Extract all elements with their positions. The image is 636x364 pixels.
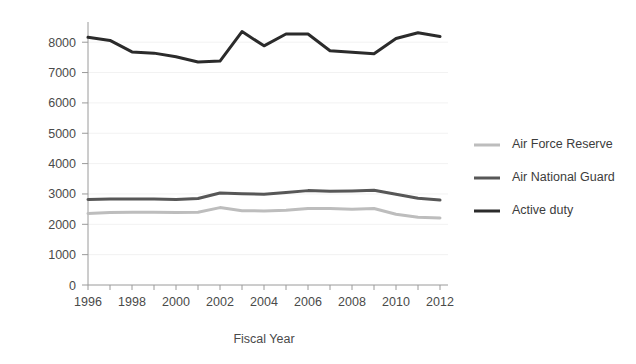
legend-label-active-duty: Active duty [512, 203, 574, 217]
legend-label-air-national-guard: Air National Guard [512, 170, 615, 184]
y-tick-label-0: 0 [69, 279, 76, 293]
line-chart: 010002000300040005000600070008000 199619… [0, 0, 636, 364]
y-tick-label-1000: 1000 [48, 248, 76, 262]
x-tick-label-2004: 2004 [250, 295, 278, 309]
x-tick-label-1996: 1996 [74, 295, 102, 309]
x-tick-label-2012: 2012 [426, 295, 454, 309]
chart-canvas: 010002000300040005000600070008000 199619… [0, 0, 636, 364]
y-tick-label-7000: 7000 [48, 66, 76, 80]
x-axis-title: Fiscal Year [233, 332, 294, 346]
y-tick-label-5000: 5000 [48, 127, 76, 141]
x-tick-label-2010: 2010 [382, 295, 410, 309]
y-tick-label-3000: 3000 [48, 187, 76, 201]
x-tick-label-1998: 1998 [118, 295, 146, 309]
legend-label-air-force-reserve: Air Force Reserve [512, 137, 613, 151]
y-tick-label-2000: 2000 [48, 218, 76, 232]
y-tick-label-6000: 6000 [48, 96, 76, 110]
x-tick-label-2002: 2002 [206, 295, 234, 309]
y-tick-label-4000: 4000 [48, 157, 76, 171]
y-tick-label-8000: 8000 [48, 36, 76, 50]
x-tick-label-2006: 2006 [294, 295, 322, 309]
x-tick-label-2000: 2000 [162, 295, 190, 309]
x-tick-label-2008: 2008 [338, 295, 366, 309]
